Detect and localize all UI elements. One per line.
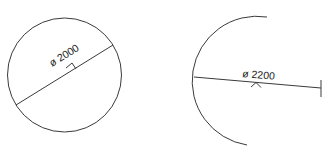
arc-figure-2200: ø 2200 <box>192 16 321 145</box>
drawing-canvas: ø 2000 ø 2200 <box>0 0 332 156</box>
diameter-label: ø 2200 <box>242 67 276 82</box>
center-mark-icon <box>66 63 76 69</box>
circle-figure-2000: ø 2000 <box>8 18 122 132</box>
diameter-label: ø 2000 <box>47 41 81 68</box>
center-mark-icon <box>251 83 261 88</box>
arc-outline <box>192 16 267 145</box>
